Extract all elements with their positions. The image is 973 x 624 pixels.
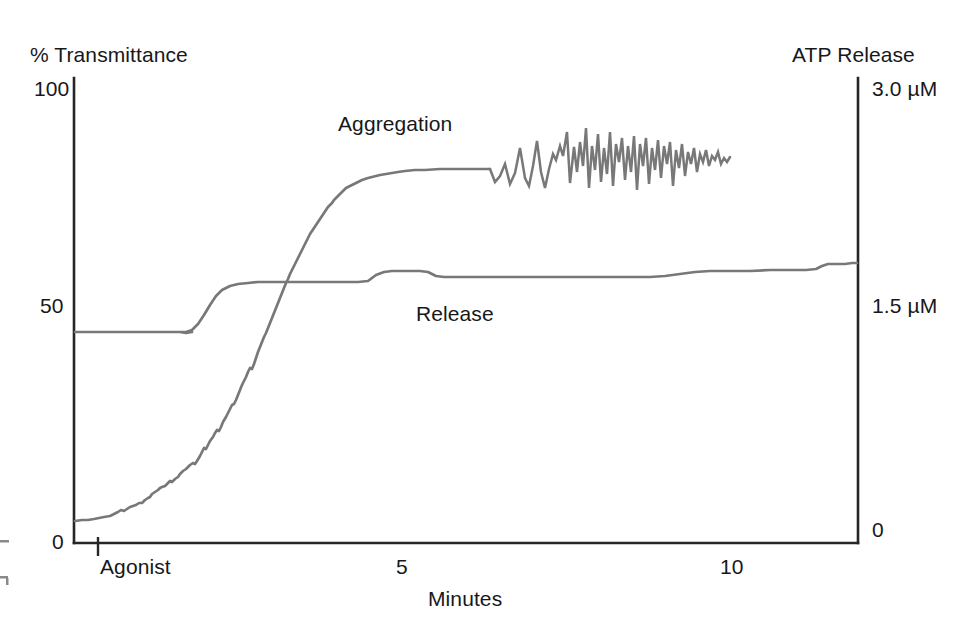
series-label-release: Release [416, 303, 494, 324]
aggregation-trace-oscillation [490, 128, 730, 190]
right-axis-tick-1-5-um: 1.5 µM [872, 295, 937, 316]
left-axis-tick-0: 0 [52, 531, 64, 552]
x-axis-tick-5: 5 [396, 556, 408, 577]
left-axis-title: % Transmittance [30, 44, 188, 65]
scan-artifacts [0, 540, 9, 585]
right-axis-tick-0: 0 [872, 519, 884, 540]
x-axis-tick-agonist: Agonist [100, 556, 171, 577]
right-axis-tick-3-0-um: 3.0 µM [872, 78, 937, 99]
x-axis-title: Minutes [428, 588, 502, 609]
right-axis-title: ATP Release [792, 44, 915, 65]
left-axis-tick-50: 50 [40, 295, 64, 316]
left-axis-tick-100: 100 [34, 78, 69, 99]
x-axis-tick-10: 10 [720, 556, 744, 577]
figure-container: % Transmittance 100 50 0 ATP Release 3.0… [0, 0, 973, 624]
aggregation-trace-rise [75, 169, 490, 521]
series-label-aggregation: Aggregation [338, 113, 452, 134]
